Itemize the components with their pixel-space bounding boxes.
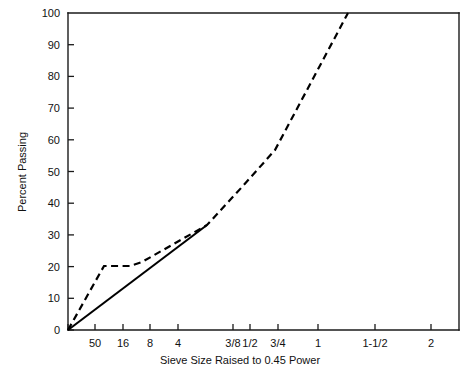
- series-layer: [68, 13, 348, 330]
- x-tick-label: 4: [175, 337, 181, 349]
- y-axis-ticks: 0102030405060708090100: [42, 7, 74, 336]
- plot-frame: [68, 13, 459, 330]
- x-tick-label: 8: [147, 337, 153, 349]
- y-tick-label: 30: [48, 229, 60, 241]
- y-tick-label: 90: [48, 39, 60, 51]
- y-tick-label: 10: [48, 292, 60, 304]
- y-tick-label: 40: [48, 197, 60, 209]
- gradation-chart: 0102030405060708090100 5016843/81/23/411…: [0, 0, 475, 382]
- x-tick-label: 16: [117, 337, 129, 349]
- x-tick-label: 3/8: [225, 337, 240, 349]
- y-tick-label: 70: [48, 102, 60, 114]
- gradation-curve-line: [68, 13, 348, 330]
- y-tick-label: 50: [48, 166, 60, 178]
- x-tick-label: 3/4: [270, 337, 285, 349]
- x-tick-label: 50: [89, 337, 101, 349]
- y-tick-label: 0: [54, 324, 60, 336]
- y-tick-label: 100: [42, 7, 60, 19]
- chart-canvas: 0102030405060708090100 5016843/81/23/411…: [0, 0, 475, 382]
- x-tick-label: 1/2: [242, 337, 257, 349]
- x-tick-label: 1-1/2: [362, 337, 387, 349]
- x-axis-title: Sieve Size Raised to 0.45 Power: [160, 354, 321, 366]
- x-tick-label: 2: [428, 337, 434, 349]
- y-tick-label: 60: [48, 134, 60, 146]
- x-axis-ticks: 5016843/81/23/411-1/22: [68, 324, 434, 349]
- x-tick-label: 1: [315, 337, 321, 349]
- y-tick-label: 80: [48, 70, 60, 82]
- y-axis-title: Percent Passing: [16, 132, 28, 212]
- maximum-density-line: [68, 225, 207, 330]
- y-tick-label: 20: [48, 261, 60, 273]
